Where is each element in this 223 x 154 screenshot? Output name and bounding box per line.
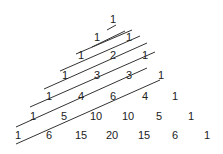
entry: 1 xyxy=(46,90,52,102)
entry: 1 xyxy=(172,90,178,102)
entry: 10 xyxy=(90,110,102,122)
entry: 1 xyxy=(142,49,148,61)
pascal-triangle-diagram: 1 1 1 1 2 1 1 3 3 1 1 4 6 4 1 1 5 10 10 … xyxy=(0,0,223,154)
entry: 6 xyxy=(110,90,116,102)
entry: 1 xyxy=(15,129,21,141)
entry: 4 xyxy=(142,90,148,102)
entry: 1 xyxy=(188,110,194,122)
entry: 5 xyxy=(156,110,162,122)
entry: 10 xyxy=(122,110,134,122)
entry: 5 xyxy=(61,110,67,122)
entry: 1 xyxy=(110,13,116,25)
diagonal-line xyxy=(107,25,116,30)
entry: 2 xyxy=(110,49,116,61)
diagonal-line xyxy=(76,30,132,54)
entry: 3 xyxy=(94,69,100,81)
entry: 15 xyxy=(138,129,150,141)
entry: 1 xyxy=(62,69,68,81)
entry: 1 xyxy=(78,49,84,61)
entry: 4 xyxy=(78,90,84,102)
entry: 6 xyxy=(46,129,52,141)
entry: 20 xyxy=(106,129,118,141)
entry: 1 xyxy=(126,31,132,43)
diagonal-line xyxy=(44,43,147,89)
entry: 1 xyxy=(30,110,36,122)
entry: 1 xyxy=(158,69,164,81)
entry: 3 xyxy=(126,69,132,81)
entry: 1 xyxy=(94,31,100,43)
entry: 1 xyxy=(204,129,210,141)
entry: 15 xyxy=(75,129,87,141)
entry: 6 xyxy=(172,129,178,141)
